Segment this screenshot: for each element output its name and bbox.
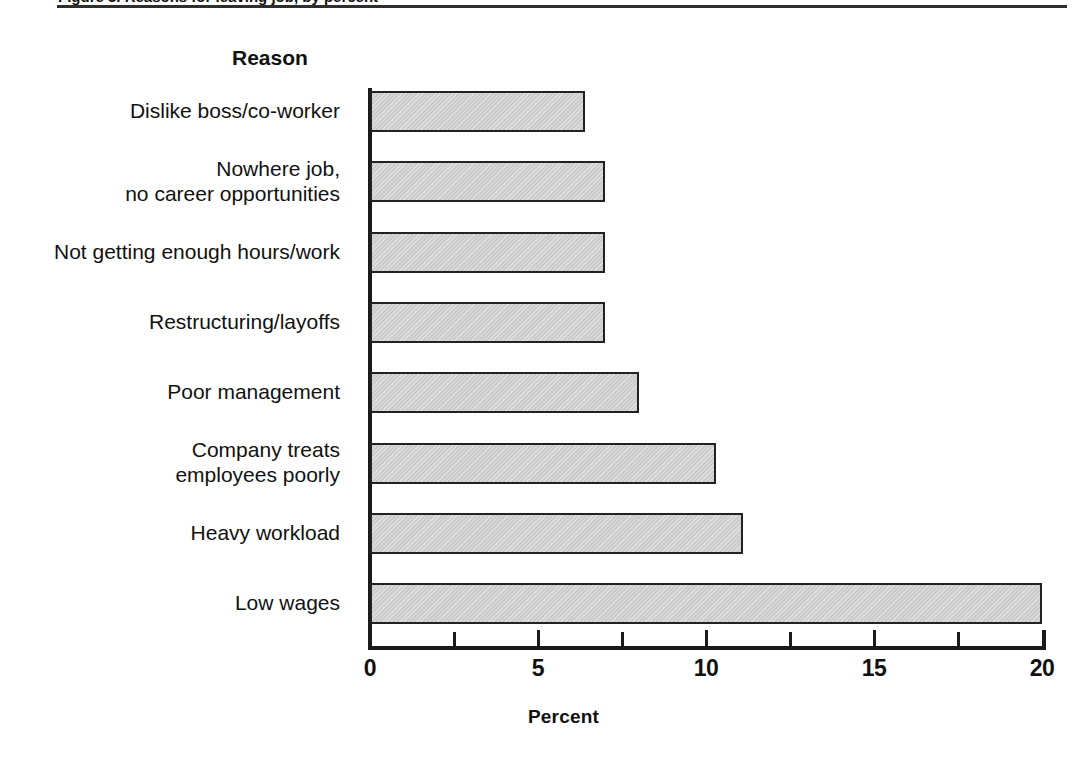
value-axis-title: Percent xyxy=(528,706,599,727)
category-label: Nowhere job, no career opportunities xyxy=(125,156,340,206)
bar xyxy=(370,161,605,202)
x-axis-end-cap xyxy=(1042,630,1046,650)
x-tick-label-0: 0 xyxy=(364,655,376,682)
bar-chart: Reason 05101520 Dislike boss/co-workerNo… xyxy=(0,0,1089,781)
value-axis-title-wrap: Percent xyxy=(0,706,1089,728)
bar xyxy=(370,232,605,273)
category-label: Restructuring/layoffs xyxy=(149,309,340,334)
bar xyxy=(370,443,716,484)
bar xyxy=(370,372,639,413)
category-label: Poor management xyxy=(167,379,340,404)
category-axis-title: Reason xyxy=(232,46,308,70)
x-tick-major-15 xyxy=(873,630,876,647)
x-tick-label-5: 5 xyxy=(532,655,544,682)
x-tick-major-5 xyxy=(537,630,540,647)
x-tick-minor-7.5 xyxy=(621,632,624,647)
category-label: Dislike boss/co-worker xyxy=(130,98,340,123)
bar xyxy=(370,302,605,343)
category-label: Not getting enough hours/work xyxy=(54,239,340,264)
x-tick-label-10: 10 xyxy=(694,655,719,682)
x-tick-minor-2.5 xyxy=(453,632,456,647)
x-tick-label-20: 20 xyxy=(1030,655,1055,682)
category-label: Low wages xyxy=(235,590,340,615)
bar xyxy=(370,583,1042,624)
bar xyxy=(370,91,585,132)
x-tick-major-10 xyxy=(705,630,708,647)
category-label: Company treats employees poorly xyxy=(175,437,340,487)
x-tick-label-15: 15 xyxy=(862,655,887,682)
x-tick-minor-17.5 xyxy=(957,632,960,647)
category-label: Heavy workload xyxy=(191,520,340,545)
x-tick-minor-12.5 xyxy=(789,632,792,647)
bar xyxy=(370,513,743,554)
